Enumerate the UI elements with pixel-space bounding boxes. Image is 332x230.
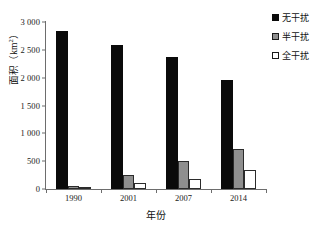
- legend-swatch-icon: [272, 14, 279, 21]
- plot-area: 05001 0001 5002 0002 5003 000: [46, 22, 266, 189]
- bar-2014-全干扰: [244, 170, 256, 189]
- legend: 无干扰半干扰全干扰: [272, 11, 309, 62]
- y-axis-tick-mark: [42, 77, 46, 78]
- bar-2007-全干扰: [189, 179, 201, 189]
- bar-2001-无干扰: [111, 45, 123, 189]
- bar-2001-全干扰: [134, 183, 146, 189]
- legend-item: 无干扰: [272, 11, 309, 24]
- x-axis-tick-mark: [46, 189, 47, 193]
- bar-2001-半干扰: [123, 175, 135, 189]
- x-axis-tick-label: 2001: [120, 193, 137, 203]
- legend-item: 全干扰: [272, 49, 309, 62]
- y-axis-title-tail: ）: [9, 29, 19, 39]
- x-axis-tick-mark: [101, 189, 102, 193]
- x-axis-tick-mark: [156, 189, 157, 193]
- bar-chart: 05001 0001 5002 0002 5003 000 面积（km2） 年份…: [0, 0, 332, 230]
- y-axis-tick-mark: [42, 161, 46, 162]
- bar-1990-无干扰: [56, 31, 68, 189]
- x-axis-tick-label: 2007: [175, 193, 192, 203]
- x-axis-tick-label: 2014: [230, 193, 247, 203]
- bar-2014-半干扰: [233, 149, 245, 189]
- legend-label: 无干扰: [282, 11, 309, 24]
- y-axis-title-base: 面积（km: [9, 43, 19, 85]
- bar-1990-半干扰: [68, 186, 80, 189]
- legend-swatch-icon: [272, 33, 279, 40]
- x-axis-tick-label: 1990: [65, 193, 82, 203]
- y-axis-tick-mark: [42, 49, 46, 50]
- y-axis-tick-mark: [42, 22, 46, 23]
- bar-2014-无干扰: [221, 80, 233, 189]
- legend-label: 全干扰: [282, 49, 309, 62]
- legend-swatch-icon: [272, 52, 279, 59]
- x-axis-title: 年份: [0, 207, 312, 222]
- bar-2007-半干扰: [178, 161, 190, 189]
- x-axis-tick-mark: [266, 189, 267, 193]
- y-axis-tick-mark: [42, 105, 46, 106]
- y-axis-tick-mark: [42, 133, 46, 134]
- legend-label: 半干扰: [282, 30, 309, 43]
- x-axis-tick-mark: [211, 189, 212, 193]
- y-axis-title: 面积（km2）: [6, 0, 20, 117]
- legend-item: 半干扰: [272, 30, 309, 43]
- bar-1990-全干扰: [79, 187, 91, 189]
- y-axis-title-exponent: 2: [7, 39, 14, 42]
- bar-2007-无干扰: [166, 57, 178, 189]
